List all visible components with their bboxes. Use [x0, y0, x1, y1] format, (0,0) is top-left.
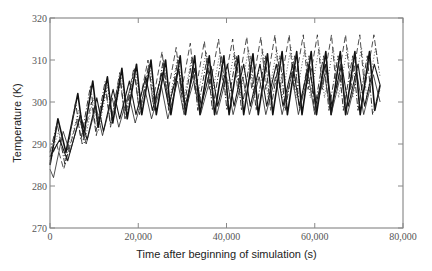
plot-area [50, 35, 380, 178]
y-tick-label: 310 [32, 55, 47, 66]
x-tick-label: 60,000 [301, 231, 329, 242]
temperature-chart: 020,00040,00060,00080,000 27028029030031… [0, 0, 432, 271]
y-tick-label: 280 [32, 181, 47, 192]
y-tick-label: 290 [32, 139, 47, 150]
y-tick-label: 320 [32, 13, 47, 24]
axis-ticks [50, 18, 403, 228]
y-tick-label: 270 [32, 223, 47, 234]
y-tick-label: 300 [32, 97, 47, 108]
x-tick-label: 20,000 [125, 231, 153, 242]
x-tick-labels: 020,00040,00060,00080,000 [48, 231, 417, 242]
x-tick-label: 40,000 [213, 231, 241, 242]
x-tick-label: 0 [48, 231, 53, 242]
series-solid-thick-line [50, 52, 380, 165]
y-tick-labels: 270280290300310320 [32, 13, 47, 234]
y-axis-title: Temperature (K) [11, 83, 23, 162]
x-tick-label: 80,000 [389, 231, 417, 242]
x-axis-title: Time after beginning of simulation (s) [136, 248, 317, 260]
plot-frame [50, 18, 403, 228]
